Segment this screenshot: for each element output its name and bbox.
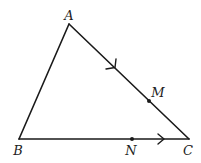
label-n: N [124,143,137,158]
triangle-diagram: A B C M N [0,0,201,163]
label-b: B [12,143,23,158]
label-a: A [63,8,73,23]
label-m: M [150,85,165,100]
point-n [130,137,134,141]
segment-ac [69,24,189,139]
segment-ab [19,24,69,139]
label-c: C [183,143,193,158]
